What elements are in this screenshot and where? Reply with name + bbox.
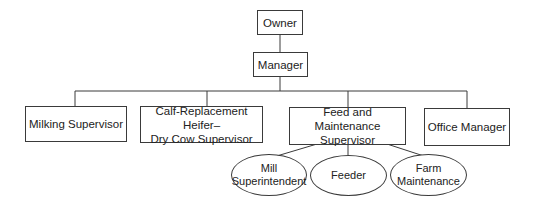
mill-superintendent-node: Mill Superintendent bbox=[231, 154, 307, 196]
feeder-label: Feeder bbox=[331, 169, 366, 182]
mill-superintendent-label: Mill Superintendent bbox=[232, 162, 307, 188]
feeder-node: Feeder bbox=[310, 155, 387, 196]
owner-node: Owner bbox=[257, 10, 303, 35]
feed-supervisor-label: Feed and Maintenance Supervisor bbox=[290, 105, 405, 147]
feed-supervisor-node: Feed and Maintenance Supervisor bbox=[289, 107, 406, 145]
calf-supervisor-node: Calf-Replacement Heifer– Dry Cow Supervi… bbox=[140, 106, 263, 143]
farm-maintenance-node: Farm Maintenance bbox=[390, 154, 467, 196]
milking-supervisor-label: Milking Supervisor bbox=[29, 117, 123, 131]
milking-supervisor-node: Milking Supervisor bbox=[25, 106, 127, 142]
manager-label: Manager bbox=[258, 58, 303, 72]
office-manager-label: Office Manager bbox=[428, 120, 506, 134]
farm-maintenance-label: Farm Maintenance bbox=[397, 162, 460, 188]
calf-supervisor-label: Calf-Replacement Heifer– Dry Cow Supervi… bbox=[141, 104, 262, 146]
owner-label: Owner bbox=[263, 16, 297, 30]
manager-node: Manager bbox=[253, 52, 308, 77]
office-manager-node: Office Manager bbox=[424, 108, 510, 146]
